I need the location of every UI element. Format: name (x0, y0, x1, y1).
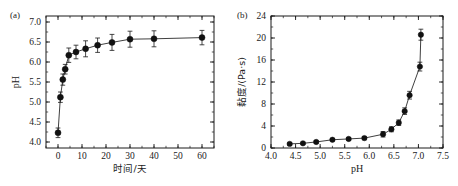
y-axis-title: 黏度/(Pa·s) (236, 57, 247, 107)
x-tick-label: 6.0 (363, 151, 375, 161)
chart-panel-b: (b)4.04.55.05.56.06.57.07.504812162024pH… (229, 0, 458, 186)
data-point-marker (127, 36, 133, 42)
x-tick-label: 4.0 (265, 151, 277, 161)
chart-svg-b: (b)4.04.55.05.56.06.57.07.504812162024pH… (229, 0, 458, 186)
data-points-group (287, 29, 424, 146)
figure-container: (a)01020304050604.04.55.05.56.06.57.0时间/… (0, 0, 458, 186)
series-line (290, 35, 421, 144)
y-tick-label: 24 (257, 11, 267, 21)
data-point-marker (407, 93, 412, 98)
x-tick-label: 60 (197, 151, 207, 161)
panel-label: (b) (237, 10, 248, 20)
y-tick-label: 12 (257, 77, 267, 87)
data-point-marker (55, 130, 61, 136)
y-axis-title: pH (10, 76, 21, 88)
data-point-marker (73, 49, 79, 55)
x-tick-label: 5.0 (314, 151, 326, 161)
data-point-marker (62, 66, 68, 72)
series-line (58, 38, 202, 133)
data-point-marker (346, 136, 351, 141)
data-point-marker (389, 127, 394, 132)
data-point-marker (151, 36, 157, 42)
data-point-marker (57, 94, 63, 100)
x-tick-label: 4.5 (290, 151, 302, 161)
x-tick-label: 6.5 (388, 151, 400, 161)
data-point-marker (199, 35, 205, 41)
data-point-marker (66, 52, 72, 58)
data-point-marker (362, 135, 367, 140)
data-point-marker (314, 139, 319, 144)
data-point-marker (300, 141, 305, 146)
x-tick-label: 20 (101, 151, 111, 161)
data-point-marker (380, 132, 385, 137)
y-tick-label: 8 (261, 99, 266, 109)
y-tick-label: 0 (261, 143, 266, 153)
data-point-marker (417, 64, 422, 69)
x-tick-label: 10 (77, 151, 87, 161)
data-point-marker (287, 141, 292, 146)
y-tick-label: 5.0 (29, 97, 41, 107)
x-tick-label: 0 (56, 151, 61, 161)
x-tick-label: 30 (125, 151, 135, 161)
y-tick-label: 7.0 (29, 17, 41, 27)
data-point-marker (396, 120, 401, 125)
x-axis-title: 时间/天 (113, 163, 146, 174)
x-tick-label: 7.0 (412, 151, 424, 161)
y-tick-label: 16 (257, 55, 267, 65)
x-tick-label: 50 (173, 151, 183, 161)
plot-frame (271, 16, 443, 148)
y-tick-label: 6.5 (29, 37, 41, 47)
data-point-marker (330, 137, 335, 142)
x-tick-label: 40 (149, 151, 159, 161)
y-tick-label: 4 (261, 121, 266, 131)
panel-label: (a) (10, 10, 20, 20)
y-tick-label: 4.0 (29, 137, 41, 147)
data-point-marker (418, 32, 423, 37)
y-tick-label: 4.5 (29, 117, 41, 127)
data-point-marker (109, 39, 115, 45)
x-axis-title: pH (351, 163, 363, 174)
y-tick-label: 20 (257, 33, 267, 43)
chart-panel-a: (a)01020304050604.04.55.05.56.06.57.0时间/… (0, 0, 229, 186)
chart-svg-a: (a)01020304050604.04.55.05.56.06.57.0时间/… (0, 0, 229, 186)
y-tick-label: 6.0 (29, 57, 41, 67)
data-point-marker (83, 46, 89, 52)
x-tick-label: 7.5 (437, 151, 449, 161)
y-tick-label: 5.5 (29, 77, 41, 87)
data-point-marker (402, 108, 407, 113)
x-tick-label: 5.5 (339, 151, 351, 161)
data-point-marker (60, 77, 66, 83)
data-points-group (55, 30, 205, 137)
data-point-marker (95, 42, 101, 48)
